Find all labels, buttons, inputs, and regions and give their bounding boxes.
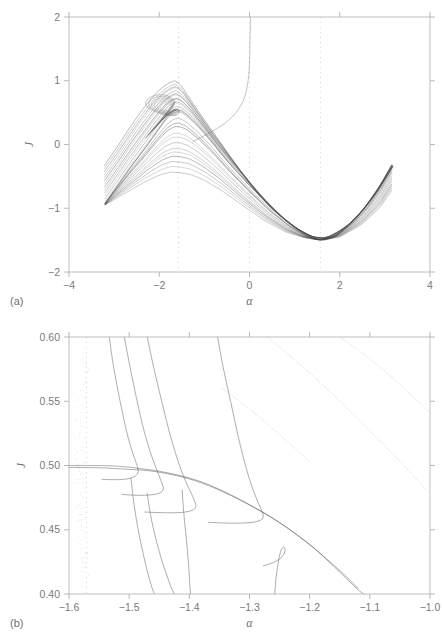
scatter-point — [85, 363, 86, 364]
scatter-point — [75, 507, 76, 508]
y-tick-label: 0.55 — [40, 395, 61, 407]
scatter-point — [87, 553, 88, 554]
scatter-point — [84, 539, 85, 540]
scatter-point — [88, 575, 89, 576]
scatter-point — [74, 482, 75, 483]
scatter-point — [81, 586, 82, 587]
scatter-point — [80, 548, 81, 549]
data-curves-group — [104, 17, 393, 240]
y-tick-label: 0 — [54, 138, 60, 150]
invariant-curve-fan — [104, 81, 393, 240]
scatter-point — [75, 419, 76, 420]
panel-b-plot: −1.6−1.5−1.4−1.3−1.2−1.1−1.00.400.450.50… — [0, 320, 444, 635]
curve-chevron-dash-lower — [340, 337, 430, 413]
x-tick-label: −4 — [63, 279, 75, 291]
scatter-point — [85, 397, 86, 398]
scatter-point — [83, 363, 84, 364]
curve-hook-4 — [209, 337, 264, 523]
scatter-point — [77, 452, 78, 453]
scatter-point — [82, 482, 83, 483]
scatter-point — [84, 491, 85, 492]
y-axis-title: J — [22, 141, 36, 147]
invariant-curve — [104, 81, 393, 239]
scatter-point — [87, 401, 88, 402]
y-tick-label: −2 — [48, 266, 60, 278]
x-tick-label: −1.1 — [359, 601, 380, 613]
scatter-point — [85, 364, 86, 365]
scatter-point — [88, 371, 89, 372]
invariant-curve — [105, 133, 392, 239]
scatter-point — [81, 508, 82, 509]
panel-tag-label: (b) — [10, 617, 23, 629]
invariant-curve — [104, 87, 392, 239]
axes-group — [64, 332, 435, 599]
x-tick-label: −1.3 — [239, 601, 260, 613]
scatter-point — [77, 508, 78, 509]
scatter-point — [81, 558, 82, 559]
scatter-point — [79, 483, 80, 484]
curve-vertical-strand-c — [182, 490, 190, 594]
scatter-point — [82, 447, 83, 448]
scatter-point — [79, 437, 80, 438]
scatter-point — [82, 514, 83, 515]
scatter-point — [84, 553, 85, 554]
scatter-point — [74, 474, 75, 475]
x-tick-label: 0 — [247, 279, 253, 291]
scatter-point — [84, 489, 85, 490]
scatter-point — [88, 368, 89, 369]
scatter-point — [80, 492, 81, 493]
scatter-point — [87, 383, 88, 384]
x-tick-label: 2 — [337, 279, 343, 291]
scatter-point — [75, 503, 76, 504]
scatter-point — [90, 372, 91, 373]
curve-hook-5 — [263, 547, 285, 594]
curve-vertical-strand-b — [147, 494, 174, 594]
scatter-point — [76, 437, 77, 438]
scatter-point — [82, 426, 83, 427]
scatter-point — [88, 558, 89, 559]
scatter-point — [83, 531, 84, 532]
scatter-point — [83, 384, 84, 385]
scatter-point — [81, 526, 82, 527]
x-tick-label: −1.4 — [179, 601, 200, 613]
scatter-point — [87, 559, 88, 560]
scatter-point — [83, 570, 84, 571]
y-tick-label: 0.40 — [40, 588, 61, 600]
scatter-point — [80, 495, 81, 496]
scatter-point — [80, 514, 81, 515]
scatter-point — [85, 514, 86, 515]
invariant-curve — [105, 118, 392, 239]
panel-tag-label: (a) — [10, 295, 23, 307]
scatter-point — [79, 479, 80, 480]
scatter-point — [79, 543, 80, 544]
scatter-point — [86, 586, 87, 587]
scatter-point — [85, 554, 86, 555]
scatter-point — [81, 562, 82, 563]
scatter-point — [81, 404, 82, 405]
scatter-point — [79, 470, 80, 471]
scatter-point — [74, 435, 75, 436]
scatter-point — [82, 549, 83, 550]
scatter-point — [85, 552, 86, 553]
scatter-point — [80, 544, 81, 545]
scatter-point — [86, 406, 87, 407]
x-tick-label: −1.5 — [119, 601, 140, 613]
curve-hook-3 — [145, 337, 196, 513]
labels-group: −1.6−1.5−1.4−1.3−1.2−1.1−1.00.400.450.50… — [10, 331, 441, 631]
scatter-point — [81, 514, 82, 515]
scatter-point — [80, 577, 81, 578]
y-tick-label: 0.45 — [40, 523, 61, 535]
scatter-point — [78, 533, 79, 534]
scatter-point — [85, 563, 86, 564]
scatter-point — [79, 434, 80, 435]
data-curves-group — [69, 337, 430, 594]
scatter-point — [79, 433, 80, 434]
scatter-point — [80, 503, 81, 504]
scatter-point — [75, 459, 76, 460]
scatter-point — [89, 356, 90, 357]
y-tick-label: 2 — [54, 11, 60, 23]
island-loop — [146, 95, 180, 138]
x-axis-title: α — [246, 294, 253, 308]
chaotic-scatter-band — [74, 356, 92, 587]
scatter-point — [79, 399, 80, 400]
